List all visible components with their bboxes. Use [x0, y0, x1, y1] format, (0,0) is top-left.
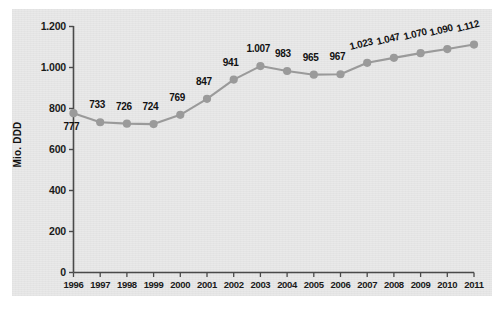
data-point-marker	[283, 67, 291, 75]
y-tick-label: 1.200	[20, 20, 66, 32]
data-point-marker	[310, 71, 318, 79]
x-tick-label: 2008	[379, 279, 409, 290]
data-point-marker	[256, 62, 264, 70]
data-point-label: 777	[64, 121, 80, 132]
data-point-label: 847	[196, 76, 212, 87]
data-point-marker	[443, 45, 451, 53]
x-tick-label: 1996	[59, 279, 89, 290]
y-tick-label: 800	[20, 102, 66, 114]
chart-figure: Mio. DDD 02004006008001.0001.200 1996199…	[0, 0, 501, 315]
data-point-label: 967	[330, 51, 346, 62]
data-point-marker	[336, 70, 344, 78]
x-tick-label: 2007	[352, 279, 382, 290]
data-series-line	[74, 45, 475, 125]
x-tick-label: 2006	[326, 279, 356, 290]
data-point-marker	[69, 109, 77, 117]
x-tick-label: 2009	[406, 279, 436, 290]
axes-group	[69, 26, 474, 277]
data-point-label: 769	[169, 92, 185, 103]
data-point-marker	[363, 59, 371, 67]
y-tick-label: 600	[20, 143, 66, 155]
data-point-marker	[230, 75, 238, 83]
data-point-marker	[150, 120, 158, 128]
data-point-marker	[123, 120, 131, 128]
x-tick-label: 1999	[139, 279, 169, 290]
data-point-marker	[390, 54, 398, 62]
data-point-marker	[176, 111, 184, 119]
data-point-label: 724	[143, 101, 159, 112]
x-tick-label: 2003	[245, 279, 275, 290]
data-point-label: 983	[275, 48, 291, 59]
x-tick-label: 2005	[299, 279, 329, 290]
x-tick-label: 2011	[459, 279, 489, 290]
data-point-marker	[417, 49, 425, 57]
data-point-marker	[470, 40, 478, 48]
data-point-label: 726	[116, 101, 132, 112]
data-point-label: 733	[89, 99, 105, 110]
data-point-marker	[203, 95, 211, 103]
y-tick-label: 0	[20, 266, 66, 278]
y-tick-label: 400	[20, 184, 66, 196]
y-tick-label: 1.000	[20, 61, 66, 73]
x-tick-label: 1998	[112, 279, 142, 290]
x-tick-label: 1997	[85, 279, 115, 290]
x-tick-label: 2000	[165, 279, 195, 290]
data-point-label: 965	[303, 52, 319, 63]
data-point-label: 1.007	[246, 43, 270, 54]
x-tick-label: 2001	[192, 279, 222, 290]
x-tick-label: 2002	[219, 279, 249, 290]
data-point-markers	[69, 40, 478, 128]
x-tick-label: 2010	[432, 279, 462, 290]
x-tick-label: 2004	[272, 279, 302, 290]
y-tick-label: 200	[20, 225, 66, 237]
data-point-label: 941	[223, 57, 239, 68]
data-point-marker	[96, 118, 104, 126]
